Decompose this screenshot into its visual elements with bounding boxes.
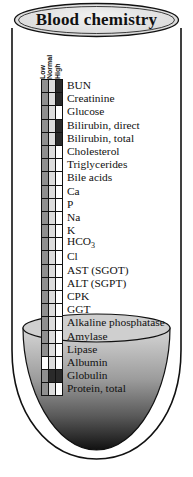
level-cells (41, 145, 63, 158)
level-cells (41, 343, 63, 356)
cell-low[interactable] (42, 171, 49, 184)
cell-normal[interactable] (49, 303, 56, 316)
cell-high[interactable] (56, 198, 63, 211)
level-cells (41, 185, 63, 198)
cell-normal[interactable] (49, 224, 56, 237)
cell-normal[interactable] (49, 92, 56, 105)
cell-normal[interactable] (49, 132, 56, 145)
cell-low[interactable] (42, 145, 49, 158)
cell-low[interactable] (42, 237, 49, 250)
cell-high[interactable] (56, 145, 63, 158)
cell-high[interactable] (56, 343, 63, 356)
cell-low[interactable] (42, 303, 49, 316)
column-header-normal: Normal (46, 55, 53, 79)
table-row: Alkaline phosphatase (41, 316, 165, 329)
cell-high[interactable] (56, 171, 63, 184)
cell-low[interactable] (42, 92, 49, 105)
cell-high[interactable] (56, 105, 63, 118)
cell-low[interactable] (42, 211, 49, 224)
cell-low[interactable] (42, 277, 49, 290)
cell-low[interactable] (42, 316, 49, 329)
cell-high[interactable] (56, 316, 63, 329)
cell-normal[interactable] (49, 356, 56, 369)
cell-high[interactable] (56, 132, 63, 145)
cell-normal[interactable] (49, 237, 56, 250)
cell-normal[interactable] (49, 211, 56, 224)
level-cells (41, 92, 63, 105)
cell-normal[interactable] (49, 119, 56, 132)
cell-normal[interactable] (49, 185, 56, 198)
analyte-label: Glucose (67, 105, 104, 118)
analyte-label: AST (SGOT) (67, 264, 129, 277)
cell-normal[interactable] (49, 343, 56, 356)
cell-high[interactable] (56, 250, 63, 263)
cell-high[interactable] (56, 92, 63, 105)
table-row: Cl (41, 250, 165, 263)
cell-low[interactable] (42, 132, 49, 145)
cell-normal[interactable] (49, 316, 56, 329)
cell-normal[interactable] (49, 79, 56, 92)
cell-high[interactable] (56, 290, 63, 303)
table-row: ALT (SGPT) (41, 277, 165, 290)
cell-normal[interactable] (49, 145, 56, 158)
level-cells (41, 105, 63, 118)
table-row: Lipase (41, 343, 165, 356)
level-cells (41, 356, 63, 369)
cell-high[interactable] (56, 158, 63, 171)
table-row: Bilirubin, total (41, 132, 165, 145)
cell-high[interactable] (56, 330, 63, 343)
level-cells (41, 237, 63, 250)
analyte-label: Protein, total (67, 382, 126, 395)
cell-low[interactable] (42, 330, 49, 343)
cell-low[interactable] (42, 119, 49, 132)
analyte-label: Bilirubin, direct (67, 119, 140, 132)
cell-low[interactable] (42, 224, 49, 237)
cell-low[interactable] (42, 264, 49, 277)
table-row: Creatinine (41, 92, 165, 105)
cell-low[interactable] (42, 105, 49, 118)
cell-high[interactable] (56, 79, 63, 92)
table-row: GGT (41, 303, 165, 316)
cell-high[interactable] (56, 356, 63, 369)
cell-low[interactable] (42, 290, 49, 303)
cell-high[interactable] (56, 185, 63, 198)
table-row: Amylase (41, 330, 165, 343)
cell-normal[interactable] (49, 277, 56, 290)
cell-high[interactable] (56, 303, 63, 316)
level-cells (41, 316, 63, 329)
cell-high[interactable] (56, 224, 63, 237)
cell-normal[interactable] (49, 158, 56, 171)
cell-normal[interactable] (49, 290, 56, 303)
cell-normal[interactable] (49, 330, 56, 343)
level-cells (41, 290, 63, 303)
cell-low[interactable] (42, 79, 49, 92)
cell-low[interactable] (42, 185, 49, 198)
cell-normal[interactable] (49, 171, 56, 184)
cell-high[interactable] (56, 369, 63, 382)
cell-low[interactable] (42, 369, 49, 382)
table-row: Cholesterol (41, 145, 165, 158)
cell-high[interactable] (56, 277, 63, 290)
level-cells (41, 330, 63, 343)
cell-normal[interactable] (49, 264, 56, 277)
cell-low[interactable] (42, 198, 49, 211)
cell-low[interactable] (42, 356, 49, 369)
level-cells (41, 132, 63, 145)
page-title: Blood chemistry (13, 2, 180, 38)
cell-low[interactable] (42, 343, 49, 356)
table-row: Triglycerides (41, 158, 165, 171)
cell-normal[interactable] (49, 198, 56, 211)
cell-high[interactable] (56, 119, 63, 132)
cell-low[interactable] (42, 250, 49, 263)
cell-high[interactable] (56, 264, 63, 277)
cell-normal[interactable] (49, 369, 56, 382)
cell-high[interactable] (56, 211, 63, 224)
cell-low[interactable] (42, 382, 49, 395)
cell-normal[interactable] (49, 382, 56, 395)
cell-normal[interactable] (49, 250, 56, 263)
cell-normal[interactable] (49, 105, 56, 118)
cell-high[interactable] (56, 382, 63, 395)
cell-high[interactable] (56, 237, 63, 250)
cell-low[interactable] (42, 158, 49, 171)
column-header-group: Low Normal High (41, 41, 65, 79)
